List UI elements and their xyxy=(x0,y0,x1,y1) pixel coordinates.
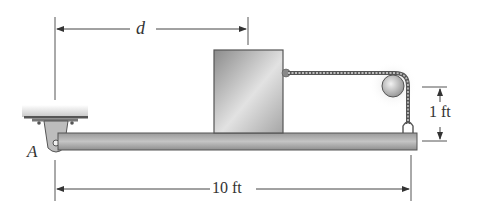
beam xyxy=(58,133,417,150)
label-10ft: 10 ft xyxy=(212,180,242,196)
block xyxy=(214,50,283,133)
label-d: d xyxy=(136,19,145,37)
label-a: A xyxy=(27,143,37,160)
label-1ft: 1 ft xyxy=(429,104,451,120)
